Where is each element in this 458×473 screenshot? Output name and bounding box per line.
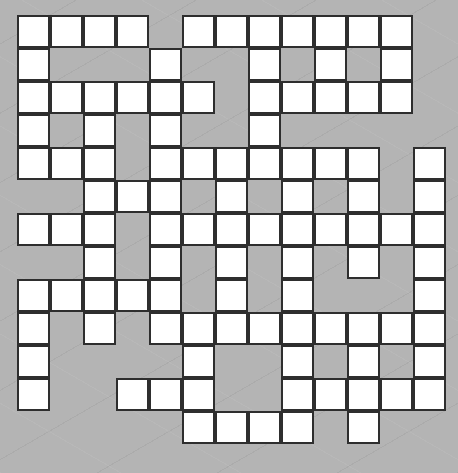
grid-cell-r4-c5[interactable] — [182, 147, 215, 180]
grid-cell-r12-c6[interactable] — [215, 411, 248, 444]
grid-cell-r11-c12[interactable] — [413, 378, 446, 411]
grid-cell-r6-c12[interactable] — [413, 213, 446, 246]
grid-cell-r1-c4[interactable] — [149, 48, 182, 81]
grid-cell-r1-c11[interactable] — [380, 48, 413, 81]
grid-cell-r8-c8[interactable] — [281, 279, 314, 312]
grid-cell-r8-c12[interactable] — [413, 279, 446, 312]
grid-cell-r10-c10[interactable] — [347, 345, 380, 378]
grid-cell-r9-c0[interactable] — [17, 312, 50, 345]
grid-cell-r2-c8[interactable] — [281, 81, 314, 114]
grid-cell-r12-c10[interactable] — [347, 411, 380, 444]
grid-cell-r6-c2[interactable] — [83, 213, 116, 246]
grid-cell-r10-c5[interactable] — [182, 345, 215, 378]
grid-cell-r7-c8[interactable] — [281, 246, 314, 279]
grid-cell-r0-c8[interactable] — [281, 15, 314, 48]
grid-cell-r2-c2[interactable] — [83, 81, 116, 114]
grid-cell-r0-c5[interactable] — [182, 15, 215, 48]
grid-cell-r6-c1[interactable] — [50, 213, 83, 246]
grid-cell-r0-c0[interactable] — [17, 15, 50, 48]
grid-cell-r6-c0[interactable] — [17, 213, 50, 246]
grid-cell-r0-c1[interactable] — [50, 15, 83, 48]
grid-cell-r2-c3[interactable] — [116, 81, 149, 114]
grid-cell-r2-c5[interactable] — [182, 81, 215, 114]
grid-cell-r2-c1[interactable] — [50, 81, 83, 114]
grid-cell-r6-c10[interactable] — [347, 213, 380, 246]
grid-cell-r0-c9[interactable] — [314, 15, 347, 48]
grid-cell-r11-c5[interactable] — [182, 378, 215, 411]
grid-cell-r4-c10[interactable] — [347, 147, 380, 180]
grid-cell-r11-c9[interactable] — [314, 378, 347, 411]
grid-cell-r3-c2[interactable] — [83, 114, 116, 147]
grid-cell-r2-c11[interactable] — [380, 81, 413, 114]
grid-cell-r1-c0[interactable] — [17, 48, 50, 81]
grid-cell-r12-c7[interactable] — [248, 411, 281, 444]
grid-cell-r11-c8[interactable] — [281, 378, 314, 411]
grid-cell-r9-c7[interactable] — [248, 312, 281, 345]
grid-cell-r8-c6[interactable] — [215, 279, 248, 312]
grid-cell-r7-c12[interactable] — [413, 246, 446, 279]
grid-cell-r4-c2[interactable] — [83, 147, 116, 180]
grid-cell-r9-c11[interactable] — [380, 312, 413, 345]
grid-cell-r7-c4[interactable] — [149, 246, 182, 279]
grid-cell-r8-c4[interactable] — [149, 279, 182, 312]
grid-cell-r5-c8[interactable] — [281, 180, 314, 213]
grid-cell-r6-c11[interactable] — [380, 213, 413, 246]
grid-cell-r4-c1[interactable] — [50, 147, 83, 180]
grid-cell-r4-c4[interactable] — [149, 147, 182, 180]
grid-cell-r8-c2[interactable] — [83, 279, 116, 312]
grid-cell-r6-c9[interactable] — [314, 213, 347, 246]
grid-cell-r11-c10[interactable] — [347, 378, 380, 411]
grid-cell-r4-c6[interactable] — [215, 147, 248, 180]
grid-cell-r0-c3[interactable] — [116, 15, 149, 48]
grid-cell-r10-c8[interactable] — [281, 345, 314, 378]
grid-cell-r9-c12[interactable] — [413, 312, 446, 345]
grid-cell-r12-c5[interactable] — [182, 411, 215, 444]
grid-cell-r11-c3[interactable] — [116, 378, 149, 411]
grid-cell-r10-c12[interactable] — [413, 345, 446, 378]
grid-cell-r9-c4[interactable] — [149, 312, 182, 345]
grid-cell-r5-c6[interactable] — [215, 180, 248, 213]
grid-cell-r0-c10[interactable] — [347, 15, 380, 48]
grid-cell-r5-c4[interactable] — [149, 180, 182, 213]
grid-cell-r2-c7[interactable] — [248, 81, 281, 114]
grid-cell-r3-c0[interactable] — [17, 114, 50, 147]
grid-cell-r0-c7[interactable] — [248, 15, 281, 48]
grid-cell-r3-c4[interactable] — [149, 114, 182, 147]
grid-cell-r4-c7[interactable] — [248, 147, 281, 180]
grid-cell-r5-c12[interactable] — [413, 180, 446, 213]
grid-cell-r1-c7[interactable] — [248, 48, 281, 81]
grid-cell-r6-c5[interactable] — [182, 213, 215, 246]
grid-cell-r8-c0[interactable] — [17, 279, 50, 312]
grid-cell-r2-c4[interactable] — [149, 81, 182, 114]
grid-cell-r6-c4[interactable] — [149, 213, 182, 246]
grid-cell-r9-c9[interactable] — [314, 312, 347, 345]
grid-cell-r4-c8[interactable] — [281, 147, 314, 180]
grid-cell-r9-c10[interactable] — [347, 312, 380, 345]
grid-cell-r11-c11[interactable] — [380, 378, 413, 411]
grid-cell-r8-c3[interactable] — [116, 279, 149, 312]
grid-cell-r1-c9[interactable] — [314, 48, 347, 81]
grid-cell-r9-c6[interactable] — [215, 312, 248, 345]
grid-cell-r10-c0[interactable] — [17, 345, 50, 378]
grid-cell-r4-c12[interactable] — [413, 147, 446, 180]
grid-cell-r4-c9[interactable] — [314, 147, 347, 180]
grid-cell-r0-c6[interactable] — [215, 15, 248, 48]
grid-cell-r8-c1[interactable] — [50, 279, 83, 312]
grid-cell-r9-c2[interactable] — [83, 312, 116, 345]
grid-cell-r7-c10[interactable] — [347, 246, 380, 279]
grid-cell-r9-c5[interactable] — [182, 312, 215, 345]
grid-cell-r5-c10[interactable] — [347, 180, 380, 213]
grid-cell-r2-c0[interactable] — [17, 81, 50, 114]
grid-cell-r11-c4[interactable] — [149, 378, 182, 411]
grid-cell-r7-c2[interactable] — [83, 246, 116, 279]
grid-cell-r11-c0[interactable] — [17, 378, 50, 411]
grid-cell-r6-c6[interactable] — [215, 213, 248, 246]
grid-cell-r7-c6[interactable] — [215, 246, 248, 279]
grid-cell-r5-c3[interactable] — [116, 180, 149, 213]
grid-cell-r2-c9[interactable] — [314, 81, 347, 114]
grid-cell-r0-c11[interactable] — [380, 15, 413, 48]
grid-cell-r0-c2[interactable] — [83, 15, 116, 48]
grid-cell-r5-c2[interactable] — [83, 180, 116, 213]
grid-cell-r12-c8[interactable] — [281, 411, 314, 444]
grid-cell-r4-c0[interactable] — [17, 147, 50, 180]
